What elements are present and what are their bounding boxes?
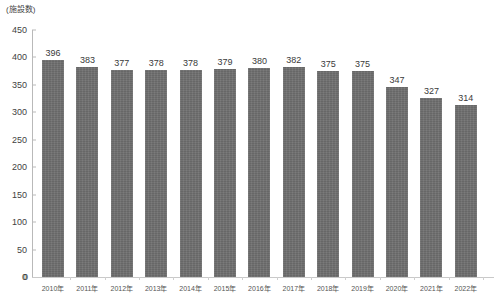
- x-tick-label: 2014年: [179, 284, 202, 293]
- bar-value-label: 375: [355, 59, 370, 69]
- x-tick-label: 2016年: [248, 284, 271, 293]
- x-tick-mark: [414, 277, 415, 280]
- x-tick-mark: [277, 277, 278, 280]
- y-tick-mark: [32, 194, 36, 195]
- bar-value-label: 377: [114, 58, 129, 68]
- x-tick-label: 2012年: [111, 284, 134, 293]
- x-tick-mark: [242, 277, 243, 280]
- bar-chart: (施設数) 050100150200250300350400450 396383…: [0, 0, 501, 303]
- y-tick-label: 400: [12, 53, 27, 62]
- bar: [111, 70, 133, 277]
- x-tick-label: 2010年: [42, 284, 65, 293]
- y-tick-label: 250: [12, 135, 27, 144]
- x-tick-label: 2013年: [145, 284, 168, 293]
- x-tick-mark: [345, 277, 346, 280]
- x-tick-label: 2020年: [386, 284, 409, 293]
- bar-item: 347: [386, 30, 408, 277]
- bar: [386, 87, 408, 277]
- x-tick-mark: [208, 277, 209, 280]
- bar-item: 382: [283, 30, 305, 277]
- bar-value-label: 383: [80, 55, 95, 65]
- x-tick-mark: [449, 277, 450, 280]
- y-tick-mark: [32, 57, 36, 58]
- bar: [317, 71, 339, 277]
- bar-value-label: 375: [321, 59, 336, 69]
- y-tick-label: 100: [12, 218, 27, 227]
- bar: [214, 69, 236, 277]
- bar-value-label: 380: [252, 56, 267, 66]
- bar-item: 378: [180, 30, 202, 277]
- bar: [420, 98, 442, 277]
- bar: [145, 70, 167, 277]
- bar-value-label: 382: [286, 55, 301, 65]
- bar-value-label: 379: [217, 57, 232, 67]
- x-tick-label: 2015年: [214, 284, 237, 293]
- bar: [283, 67, 305, 277]
- y-tick-mark: [32, 222, 36, 223]
- y-tick-label: 300: [12, 108, 27, 117]
- bar-value-label: 347: [389, 75, 404, 85]
- x-tick-label: 2021年: [420, 284, 443, 293]
- x-tick-label: 2017年: [283, 284, 306, 293]
- plot-area: 050100150200250300350400450 396383377378…: [32, 30, 494, 277]
- x-tick-label: 2019年: [351, 284, 374, 293]
- x-axis-baseline: [32, 277, 494, 278]
- y-tick-mark: [32, 167, 36, 168]
- bar-value-label: 314: [458, 93, 473, 103]
- bar-item: 377: [111, 30, 133, 277]
- bar: [248, 68, 270, 277]
- y-tick-mark: [32, 139, 36, 140]
- bar-value-label: 396: [45, 48, 60, 58]
- y-tick-label: 450: [12, 26, 27, 35]
- y-tick-label: 200: [12, 163, 27, 172]
- y-tick-mark: [32, 84, 36, 85]
- bar: [352, 71, 374, 277]
- bar: [42, 60, 64, 277]
- bar-item: 383: [76, 30, 98, 277]
- bar: [455, 105, 477, 277]
- x-tick-mark: [173, 277, 174, 280]
- bar-item: 396: [42, 30, 64, 277]
- bar-item: 375: [317, 30, 339, 277]
- y-zero-label: 0: [0, 273, 28, 282]
- y-tick-mark: [32, 112, 36, 113]
- bar-item: 378: [145, 30, 167, 277]
- y-tick-mark: [32, 249, 36, 250]
- bar-value-label: 378: [149, 58, 164, 68]
- bar-value-label: 378: [183, 58, 198, 68]
- bar: [180, 70, 202, 277]
- bar-value-label: 327: [424, 86, 439, 96]
- x-tick-mark: [105, 277, 106, 280]
- bar-item: 379: [214, 30, 236, 277]
- bar-item: 375: [352, 30, 374, 277]
- x-tick-mark: [380, 277, 381, 280]
- bar-item: 314: [455, 30, 477, 277]
- bar-item: 327: [420, 30, 442, 277]
- x-tick-label: 2022年: [455, 284, 478, 293]
- y-axis-unit-caption: (施設数): [6, 4, 35, 15]
- x-tick-mark: [311, 277, 312, 280]
- bar-item: 380: [248, 30, 270, 277]
- x-tick-label: 2011年: [76, 284, 98, 293]
- x-tick-label: 2018年: [317, 284, 340, 293]
- y-tick-label: 350: [12, 80, 27, 89]
- x-tick-mark: [70, 277, 71, 280]
- y-tick-mark: [32, 30, 36, 31]
- bar: [76, 67, 98, 277]
- y-tick-label: 50: [17, 245, 27, 254]
- x-tick-mark: [139, 277, 140, 280]
- y-tick-label: 150: [12, 190, 27, 199]
- x-tick-mark: [483, 277, 484, 280]
